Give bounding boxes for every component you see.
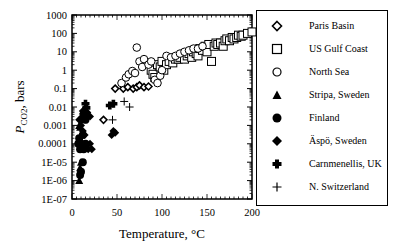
legend-item-stripa-sweden: Stripa, Sweden [257, 86, 387, 106]
data-point [133, 44, 141, 52]
legend-item-north-sea: North Sea [257, 63, 387, 83]
diamond-filled-icon [271, 135, 283, 147]
y-tick-label: 0.0001 [38, 138, 67, 149]
data-point [147, 58, 155, 66]
x-tick-label: 150 [199, 207, 215, 218]
square-open-icon [271, 43, 283, 55]
x-tick-label: 100 [154, 207, 170, 218]
y-axis-label: PCO2, bars [12, 80, 29, 134]
legend-item-finland: Finland [257, 109, 387, 129]
y-axis-tick-labels: 10001001010.10.010.0010.00011E-051E-061E… [38, 10, 67, 205]
plus-filled-icon [271, 158, 283, 170]
data-point [76, 171, 84, 179]
y-tick-label: 0.01 [49, 102, 67, 113]
data-point [208, 57, 216, 65]
y-tick-label: 1E-06 [41, 175, 67, 186]
triangle-filled-icon [271, 89, 283, 101]
legend-item-paris-basin: Paris Basin [257, 17, 387, 37]
x-axis-tick-labels: 050100150200 [69, 207, 260, 218]
legend-item-carnmenellis-uk: Carnmenellis, UK [257, 155, 387, 175]
circle-open-icon [271, 66, 283, 78]
y-tick-label: 1 [62, 65, 67, 76]
data-point [158, 66, 166, 74]
data-point [131, 69, 139, 77]
legend-item-n-switzerland: N. Switzerland [257, 178, 387, 198]
circle-filled-icon [271, 112, 283, 124]
data-point [199, 42, 207, 50]
y-tick-label: 0.001 [43, 120, 67, 131]
y-tick-label: 100 [51, 28, 67, 39]
y-tick-label: 1E-07 [41, 194, 67, 205]
plus-icon [271, 181, 283, 193]
x-tick-label: 0 [69, 207, 74, 218]
chart-legend: Paris Basin US Gulf Coast North Sea Stri… [256, 10, 388, 206]
data-point [154, 79, 162, 87]
x-tick-label: 200 [244, 207, 260, 218]
legend-item-aspo-sweden: Äspö, Sweden [257, 132, 387, 152]
y-tick-label: 0.1 [54, 83, 67, 94]
data-point [248, 28, 256, 36]
x-axis-label: Temperature, °C [119, 226, 205, 241]
legend-item-us-gulf-coast: US Gulf Coast [257, 40, 387, 60]
x-tick-label: 50 [112, 207, 123, 218]
y-tick-label: 10 [57, 46, 68, 57]
y-tick-label: 1E-05 [41, 157, 67, 168]
y-tick-label: 1000 [46, 10, 67, 21]
diamond-open-icon [271, 20, 283, 32]
data-point [79, 158, 87, 166]
